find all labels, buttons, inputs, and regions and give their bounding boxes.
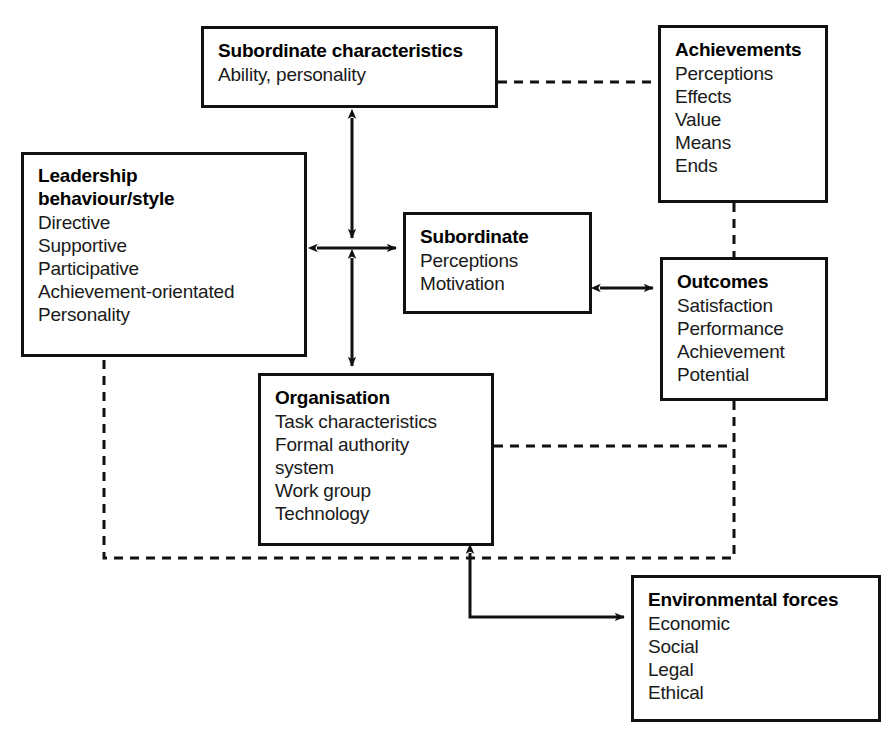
node-items: Economic Social Legal Ethical [648,612,866,704]
node-item: Achievement-orientated [38,280,292,303]
node-item: Effects [675,85,813,108]
node-item: Task characteristics [275,410,479,433]
node-item: Means [675,131,813,154]
node-items: Satisfaction Performance Achievement Pot… [677,294,813,386]
node-item: Achievement [677,340,813,363]
node-item: Economic [648,612,866,635]
node-title: Organisation [275,386,479,409]
node-outcomes: Outcomes Satisfaction Performance Achiev… [660,257,828,401]
node-item: Motivation [420,272,577,295]
node-title: Subordinate characteristics [218,39,483,62]
node-items: Ability, personality [218,63,483,86]
node-item: Satisfaction [677,294,813,317]
node-item: Formal authority [275,433,479,456]
node-leadership: Leadership behaviour/style Directive Sup… [21,152,307,357]
node-title-line2: behaviour/style [38,188,292,210]
node-items: Perceptions Effects Value Means Ends [675,62,813,177]
node-title: Subordinate [420,225,577,248]
node-organisation: Organisation Task characteristics Formal… [258,373,494,546]
node-environmental: Environmental forces Economic Social Leg… [631,575,881,722]
node-item: Ability, personality [218,63,483,86]
node-item: Directive [38,211,292,234]
node-item: Ethical [648,681,866,704]
node-item: Value [675,108,813,131]
node-item: system [275,456,479,479]
node-subordinate-characteristics: Subordinate characteristics Ability, per… [201,26,498,108]
node-title: Environmental forces [648,588,866,611]
node-item: Perceptions [420,249,577,272]
node-item: Participative [38,257,292,280]
node-item: Perceptions [675,62,813,85]
node-items: Task characteristics Formal authority sy… [275,410,479,525]
node-title-line1: Leadership [38,165,292,187]
node-item: Potential [677,363,813,386]
node-title: Achievements [675,38,813,61]
node-achievements: Achievements Perceptions Effects Value M… [658,25,828,203]
node-item: Supportive [38,234,292,257]
connector-environmental-to-organisation [470,553,624,617]
node-item: Social [648,635,866,658]
node-item: Performance [677,317,813,340]
diagram-canvas: Subordinate characteristics Ability, per… [0,0,891,747]
node-item: Technology [275,502,479,525]
node-item: Ends [675,154,813,177]
node-subordinate: Subordinate Perceptions Motivation [403,212,592,314]
node-title: Outcomes [677,270,813,293]
node-items: Perceptions Motivation [420,249,577,295]
node-item: Personality [38,303,292,326]
node-item: Work group [275,479,479,502]
node-items: Directive Supportive Participative Achie… [38,211,292,326]
node-item: Legal [648,658,866,681]
